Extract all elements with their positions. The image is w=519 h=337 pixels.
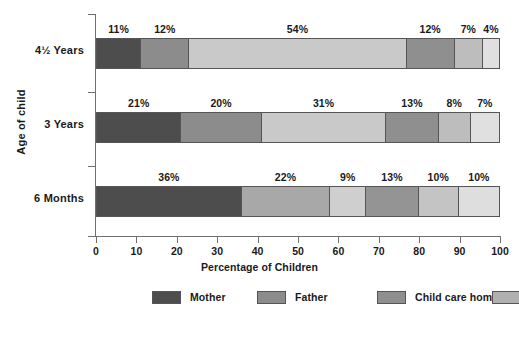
bar-segment[interactable]: 7% [471,113,499,142]
bar-segment-value-label: 4% [483,23,498,35]
legend-item[interactable]: Mother [152,286,257,308]
bar-segment[interactable]: 22% [242,187,330,216]
bar-segment-value-label: 54% [287,23,308,35]
bar-segment[interactable]: 10% [459,187,499,216]
bar-segment-value-label: 12% [154,23,175,35]
y-axis-category-label: 4½ Years [35,44,84,56]
legend-label: Mother [190,291,226,303]
bar-segment-value-label: 13% [401,97,422,109]
x-axis-tick-label: 0 [93,245,99,257]
legend-swatch [257,291,286,304]
bar-segment[interactable]: 13% [386,113,438,142]
bar-segment[interactable]: 9% [330,187,366,216]
bar-segment-value-label: 8% [447,97,462,109]
stacked-bar-chart: Age of child 4½ Years11%12%54%12%7%4%3 Y… [0,0,519,337]
bar-row: 4½ Years11%12%54%12%7%4% [96,18,500,76]
y-axis-tick [88,14,96,15]
bar-row: 3 Years21%20%31%13%8%7% [96,92,500,150]
x-axis-tick [217,236,218,243]
bar-segment[interactable]: 11% [97,39,141,68]
x-axis-tick [500,236,501,243]
y-axis-category-label: 3 Years [44,118,84,130]
bar-segment-value-label: 11% [108,23,129,35]
x-axis-title: Percentage of Children [0,261,519,273]
bar-segment-value-label: 9% [340,171,355,183]
y-axis-category-label: 6 Months [34,192,84,204]
legend-label: Child care home [415,291,498,303]
legend-swatch [377,291,406,304]
y-axis-tick [88,236,96,237]
x-axis-tick [177,236,178,243]
x-axis-tick [258,236,259,243]
bar-segment[interactable]: 12% [141,39,189,68]
x-axis-tick-label: 40 [252,245,264,257]
legend-item[interactable]: Child care home [377,286,492,308]
bar-segment[interactable]: 20% [181,113,261,142]
bar-segment[interactable]: 13% [366,187,418,216]
bar-segment[interactable]: 31% [262,113,387,142]
x-axis-tick-label: 20 [171,245,183,257]
legend-swatch [492,291,519,304]
stacked-bar: 11%12%54%12%7%4% [96,38,500,69]
x-axis-tick [136,236,137,243]
x-axis-tick [298,236,299,243]
bar-segment-value-label: 12% [419,23,440,35]
legend-item[interactable]: Grandparent [492,286,519,308]
chart-legend: MotherFatherChild care homeGrandparentCe… [152,286,492,308]
bar-segment-value-label: 21% [128,97,149,109]
bar-segment[interactable]: 54% [189,39,406,68]
bar-segment-value-label: 10% [428,171,449,183]
bar-segment[interactable]: 21% [97,113,181,142]
y-axis-tick [88,92,96,93]
bar-segment-value-label: 31% [313,97,334,109]
x-axis-tick-label: 90 [454,245,466,257]
bar-segment-value-label: 10% [468,171,489,183]
x-axis-tick-label: 100 [491,245,509,257]
x-axis-tick [96,236,97,243]
x-axis-tick-label: 50 [292,245,304,257]
x-axis-tick [419,236,420,243]
x-axis-tick-label: 10 [131,245,143,257]
bar-segment-value-label: 13% [381,171,402,183]
bar-segment-value-label: 7% [461,23,476,35]
x-axis-tick [379,236,380,243]
bar-segment[interactable]: 7% [455,39,483,68]
bar-row: 6 Months36%22%9%13%10%10% [96,166,500,224]
x-axis-tick [460,236,461,243]
x-axis-tick [338,236,339,243]
bar-segment-value-label: 20% [210,97,231,109]
y-axis-tick [88,166,96,167]
x-axis-tick-label: 60 [333,245,345,257]
bar-segment-value-label: 22% [275,171,296,183]
bar-segment[interactable]: 36% [97,187,242,216]
bar-segment[interactable]: 4% [483,39,499,68]
bar-segment-value-label: 7% [477,97,492,109]
stacked-bar: 21%20%31%13%8%7% [96,112,500,143]
stacked-bar: 36%22%9%13%10%10% [96,186,500,217]
bar-segment[interactable]: 12% [407,39,455,68]
bar-segment[interactable]: 10% [419,187,459,216]
plot-area: 4½ Years11%12%54%12%7%4%3 Years21%20%31%… [96,14,500,236]
legend-label: Father [295,291,328,303]
bar-segment-value-label: 36% [158,171,179,183]
y-axis-title: Age of child [15,62,27,182]
x-axis-tick-label: 30 [211,245,223,257]
legend-item[interactable]: Father [257,286,377,308]
x-axis-tick-label: 80 [413,245,425,257]
x-axis-tick-label: 70 [373,245,385,257]
legend-swatch [152,291,181,304]
bar-segment[interactable]: 8% [439,113,471,142]
